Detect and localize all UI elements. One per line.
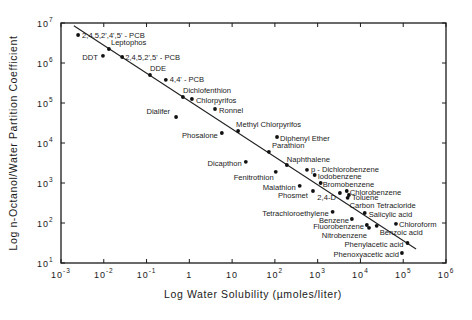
data-point: Phenylacetic acid xyxy=(344,240,409,249)
point-marker xyxy=(400,251,404,255)
x-tick-label: 105 xyxy=(395,267,412,280)
point-label: DDE xyxy=(150,64,166,73)
point-marker xyxy=(345,189,349,193)
point-marker xyxy=(305,168,309,172)
point-label: Leptophos xyxy=(111,38,147,47)
x-tick-label: 103 xyxy=(309,267,326,280)
point-label: Methyl Chlorpyrifos xyxy=(236,120,301,129)
data-point: Phosalone xyxy=(182,131,224,140)
point-marker xyxy=(298,184,302,188)
y-tick-label: 106 xyxy=(37,56,54,69)
point-marker xyxy=(107,47,111,51)
point-marker xyxy=(394,222,398,226)
point-label: 2,4,5,2',5' - PCB xyxy=(125,53,180,62)
y-tick-label: 102 xyxy=(37,216,54,229)
scatter-chart: 10-310-210-1110102103104105106 101102103… xyxy=(0,0,472,320)
point-label: Parathion xyxy=(272,141,305,150)
point-label: DDT xyxy=(82,53,98,62)
point-marker xyxy=(164,78,168,82)
point-label: Dicapthon xyxy=(208,159,242,168)
data-point: Toluene xyxy=(347,193,379,202)
point-marker xyxy=(406,241,410,245)
point-marker xyxy=(120,55,124,59)
y-axis-title: Log n-Octanol/Water Partition Coefficien… xyxy=(7,36,19,251)
point-marker xyxy=(363,211,367,215)
point-marker xyxy=(350,217,354,221)
point-marker xyxy=(346,196,350,200)
point-label: Fenitrothion xyxy=(234,173,274,182)
point-label: Toluene xyxy=(352,193,379,202)
point-marker xyxy=(267,150,271,154)
point-marker xyxy=(190,97,194,101)
data-point: Phenoxyacetic acid xyxy=(334,250,404,259)
point-label: 4,4' - PCB xyxy=(170,75,204,84)
x-tick-label: 102 xyxy=(267,267,284,280)
data-point: Ronnel xyxy=(213,106,243,115)
data-point: 2,4-D xyxy=(317,191,341,201)
data-point: 4,4' - PCB xyxy=(164,75,204,84)
y-tick-label: 107 xyxy=(37,16,54,29)
point-marker xyxy=(181,95,185,99)
point-marker xyxy=(367,226,371,230)
point-label: Phenoxyacetic acid xyxy=(334,250,399,259)
point-label: Salicylic acid xyxy=(369,210,412,219)
data-point: Parathion xyxy=(267,141,304,153)
data-point: Phosmet xyxy=(278,189,315,199)
data-point: Leptophos xyxy=(107,38,147,51)
point-label: Phosalone xyxy=(182,131,218,140)
point-label: 2,4-D xyxy=(317,193,336,202)
data-point: Salicylic acid xyxy=(363,210,412,219)
x-tick-label: 106 xyxy=(438,267,455,280)
point-marker xyxy=(236,129,240,133)
point-label: Chlorpyrifos xyxy=(196,96,237,105)
point-marker xyxy=(220,131,224,135)
data-point: Chlorpyrifos xyxy=(190,96,237,105)
point-marker xyxy=(174,115,178,119)
point-marker xyxy=(76,33,80,37)
point-marker xyxy=(313,173,317,177)
point-label: Dichlofenthion xyxy=(183,86,231,95)
point-marker xyxy=(285,163,289,167)
x-tick-label: 104 xyxy=(352,267,369,280)
y-tick-label: 104 xyxy=(37,136,54,149)
data-point: Dialifer xyxy=(146,107,178,119)
x-axis-title: Log Water Solubility (µmoles/liter) xyxy=(164,288,342,300)
point-label: Fluorobenzene xyxy=(313,222,364,231)
point-marker xyxy=(375,224,379,228)
point-label: Benzoic acid xyxy=(380,228,423,237)
x-tick-label: 10-1 xyxy=(137,267,157,280)
data-point: DDT xyxy=(82,53,105,62)
x-tick-label: 1 xyxy=(186,270,192,280)
x-tick-label: 10-3 xyxy=(51,267,71,280)
y-tick-label: 105 xyxy=(37,96,54,109)
point-marker xyxy=(311,189,315,193)
data-point: Methyl Chlorpyrifos xyxy=(236,120,301,133)
x-tick-label: 10-2 xyxy=(94,267,114,280)
point-label: Ronnel xyxy=(219,106,243,115)
point-label: Naphthalene xyxy=(287,155,330,164)
point-marker xyxy=(274,170,278,174)
point-marker xyxy=(244,160,248,164)
point-label: Phosmet xyxy=(278,191,309,200)
point-label: Phenylacetic acid xyxy=(344,240,403,249)
data-point: 2,4,5,2',5' - PCB xyxy=(120,53,180,62)
point-marker xyxy=(338,191,342,195)
data-point: Fluorobenzene xyxy=(313,222,369,231)
point-label: Dialifer xyxy=(146,107,170,116)
x-tick-label: 10 xyxy=(226,270,238,280)
data-point: Dicapthon xyxy=(208,159,248,168)
y-tick-label: 103 xyxy=(37,176,54,189)
point-marker xyxy=(101,54,105,58)
point-marker xyxy=(275,135,279,139)
y-tick-label: 101 xyxy=(37,256,54,269)
point-marker xyxy=(213,107,217,111)
data-point: Fenitrothion xyxy=(234,170,278,182)
point-marker xyxy=(148,73,152,77)
point-marker xyxy=(331,210,335,214)
data-point: DDE xyxy=(148,64,166,77)
